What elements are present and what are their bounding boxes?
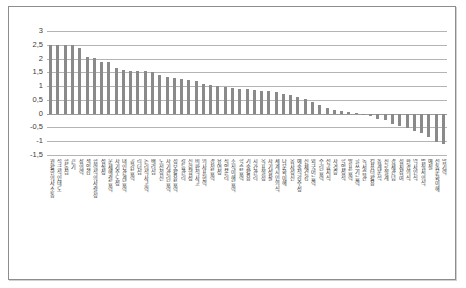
bar [427,114,430,138]
bar [122,70,125,114]
bar [347,112,350,113]
bar [326,108,329,114]
bar [129,71,132,114]
bar [107,62,110,114]
bar [435,114,438,142]
bar [420,114,423,134]
bar [362,114,365,116]
bar [93,58,96,113]
bar [209,85,212,114]
bar [64,45,67,114]
bar [275,92,278,113]
bar [296,97,299,114]
y-axis-tick-label: 1 [39,82,43,90]
bar [151,72,154,114]
bar [158,75,161,114]
bar [115,68,118,114]
bar [231,88,234,114]
bar [180,79,183,113]
bar [384,114,387,121]
chart-plot-container: 32,521,510,50-0,5-1-1,5 원활한 의사소통적극적인 태도협… [9,7,455,279]
bar [238,89,241,114]
chart-figure: 32,521,510,50-0,5-1-1,5 원활한 의사소통적극적인 태도협… [0,0,466,288]
y-axis-tick-label: 1,5 [33,69,43,77]
bar [333,110,336,113]
bar [216,86,219,114]
plot-area: 32,521,510,50-0,5-1-1,5 [47,31,447,155]
gridline: -1,5 [47,155,447,156]
bar [78,48,81,113]
bar [246,89,249,113]
bar [376,114,379,119]
chart-outer-frame: 32,521,510,50-0,5-1-1,5 원활한 의사소통적극적인 태도협… [8,6,456,280]
y-axis-tick-label: 2,5 [33,41,43,49]
bar [413,114,416,131]
bar [187,80,190,114]
bar [202,84,205,114]
bar [100,62,103,114]
bar [442,114,445,144]
x-axis-labels: 원활한 의사소통적극적인 태도협동심끈기창의력책임감협력적 의사결정성실성문제해… [47,159,447,245]
bar [355,113,358,114]
bar [195,81,198,114]
bar-series [47,31,447,155]
y-axis-tick-label: 3 [39,27,43,35]
y-axis-tick-label: 2 [39,55,43,63]
bar [398,114,401,126]
bar [173,78,176,114]
bar [49,45,52,114]
bar [253,90,256,114]
bar [224,87,227,114]
bar [304,99,307,113]
y-axis-tick-label: 0 [39,110,43,118]
bar [406,114,409,128]
y-axis-tick-label: -0,5 [30,124,43,132]
y-axis-tick-label: 0,5 [33,96,43,104]
bar [71,45,74,113]
bar [136,71,139,114]
bar [267,91,270,114]
y-axis-tick-label: -1,5 [30,151,43,159]
bar [340,111,343,113]
bar [86,57,89,113]
bar [369,114,372,117]
bar [282,94,285,114]
bar [318,105,321,113]
bar [391,114,394,124]
bar [311,102,314,114]
bar [166,77,169,113]
bar [144,71,147,113]
x-axis-category-label: 암기력 [440,159,449,176]
bar [260,91,263,114]
bar [289,95,292,113]
y-axis-tick-label: -1 [36,137,43,145]
bar [56,45,59,114]
